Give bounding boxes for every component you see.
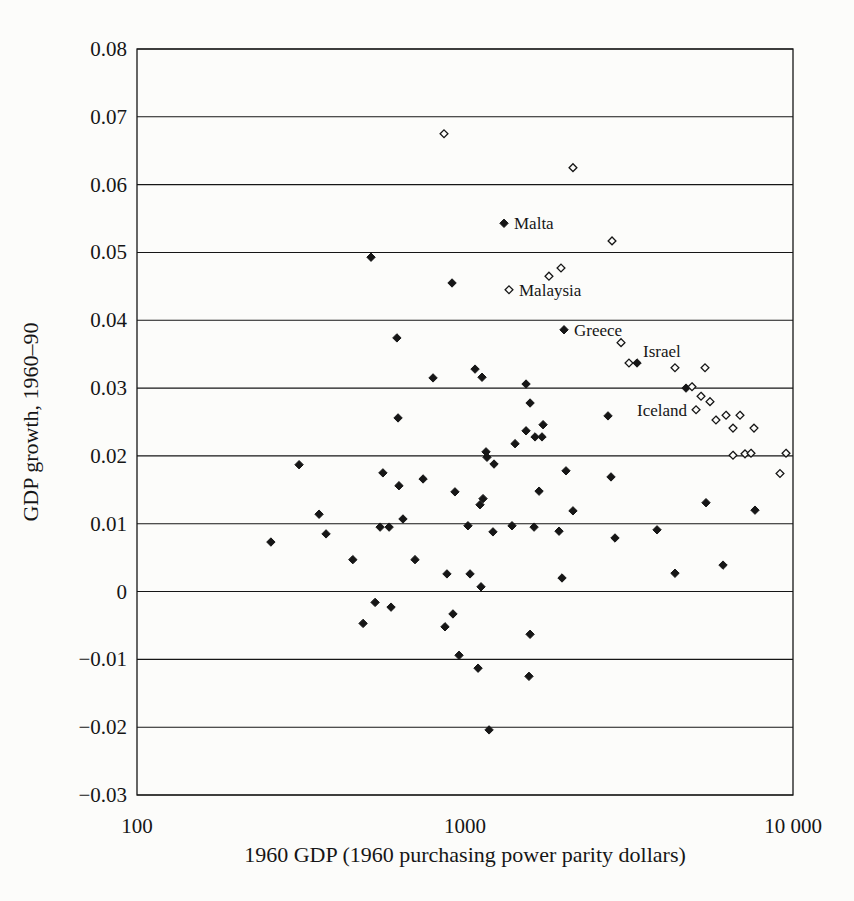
data-point-open	[750, 424, 758, 432]
data-point-filled	[526, 630, 534, 638]
data-point-open	[440, 130, 448, 138]
data-point-filled	[449, 610, 457, 618]
data-point-filled	[535, 487, 543, 495]
y-tick-label-−0.02: −0.02	[78, 715, 127, 739]
data-point-filled	[455, 651, 463, 659]
y-tick-label-−0.03: −0.03	[78, 783, 127, 807]
data-point-filled	[538, 433, 546, 441]
y-tick-label-0.04: 0.04	[90, 308, 127, 332]
data-point-filled	[511, 440, 519, 448]
data-point-filled	[500, 219, 508, 227]
data-point-filled	[539, 421, 547, 429]
data-point-filled	[569, 507, 577, 515]
data-point-filled	[441, 623, 449, 631]
y-tick-label-0.05: 0.05	[90, 240, 127, 264]
data-point-filled	[607, 473, 615, 481]
data-point-filled	[611, 534, 619, 542]
x-tick-label-100: 100	[121, 814, 153, 838]
data-point-filled	[525, 672, 533, 680]
x-tick-label-1000: 1000	[444, 814, 486, 838]
data-point-open	[697, 392, 705, 400]
y-tick-label-0.06: 0.06	[90, 173, 127, 197]
annotation-israel: Israel	[643, 342, 681, 361]
data-point-open	[722, 411, 730, 419]
data-point-filled	[315, 510, 323, 518]
data-point-open	[671, 364, 679, 372]
data-point-filled	[474, 664, 482, 672]
data-point-filled	[429, 374, 437, 382]
data-point-filled	[464, 522, 472, 530]
figure-page: 0.080.070.060.050.040.030.020.010−0.01−0…	[0, 0, 854, 901]
y-tick-label-−0.01: −0.01	[78, 647, 127, 671]
annotation-malta: Malta	[514, 214, 554, 233]
data-point-open	[706, 398, 714, 406]
country-labels-layer: MaltaMalaysiaGreeceIsraelIceland	[514, 214, 688, 420]
data-point-filled	[448, 279, 456, 287]
data-point-filled	[295, 461, 303, 469]
tick-labels-layer: 0.080.070.060.050.040.030.020.010−0.01−0…	[78, 37, 821, 838]
data-point-filled	[562, 467, 570, 475]
annotation-greece: Greece	[574, 321, 622, 340]
data-point-filled	[555, 527, 563, 535]
data-point-open	[625, 359, 633, 367]
data-point-open	[617, 339, 625, 347]
data-point-filled	[371, 598, 379, 606]
data-point-open	[545, 272, 553, 280]
data-point-filled	[359, 619, 367, 627]
y-axis-title: GDP growth, 1960–90	[18, 322, 43, 521]
plot-frame-layer	[137, 49, 793, 795]
scatter-plot: 0.080.070.060.050.040.030.020.010−0.01−0…	[0, 0, 854, 901]
data-point-filled	[379, 469, 387, 477]
y-tick-label-0.03: 0.03	[90, 376, 127, 400]
data-point-open	[557, 264, 565, 272]
y-tick-label-0.07: 0.07	[90, 105, 127, 129]
data-point-filled	[604, 412, 612, 420]
data-point-open	[712, 416, 720, 424]
data-point-filled	[477, 583, 485, 591]
data-point-filled	[387, 603, 395, 611]
data-point-filled	[522, 427, 530, 435]
data-point-filled	[490, 460, 498, 468]
data-point-open	[776, 470, 784, 478]
data-point-open	[505, 286, 513, 294]
data-point-open	[701, 364, 709, 372]
data-point-filled	[671, 569, 679, 577]
data-point-open	[729, 451, 737, 459]
data-point-filled	[393, 334, 401, 342]
data-point-filled	[478, 373, 486, 381]
plot-border	[137, 49, 793, 795]
data-point-filled	[558, 574, 566, 582]
x-axis-title: 1960 GDP (1960 purchasing power parity d…	[244, 842, 686, 867]
data-point-filled	[419, 475, 427, 483]
gridlines-layer	[137, 49, 793, 795]
data-point-filled	[399, 515, 407, 523]
data-point-filled	[451, 488, 459, 496]
data-point-open	[608, 237, 616, 245]
y-tick-label-0: 0	[117, 580, 128, 604]
data-point-filled	[466, 570, 474, 578]
data-point-filled	[702, 499, 710, 507]
data-point-open	[569, 164, 577, 172]
y-tick-label-0.08: 0.08	[90, 37, 127, 61]
data-point-filled	[719, 561, 727, 569]
data-point-filled	[411, 555, 419, 563]
data-point-filled	[751, 506, 759, 514]
y-tick-label-0.01: 0.01	[90, 512, 127, 536]
data-point-filled	[653, 526, 661, 534]
data-point-filled	[395, 482, 403, 490]
data-point-filled	[526, 399, 534, 407]
annotation-malaysia: Malaysia	[519, 281, 582, 300]
annotation-iceland: Iceland	[637, 401, 688, 420]
x-tick-label-10000: 10 000	[764, 814, 822, 838]
data-point-filled	[633, 359, 641, 367]
data-point-filled	[322, 530, 330, 538]
data-point-filled	[394, 414, 402, 422]
data-point-filled	[443, 570, 451, 578]
data-point-filled	[522, 380, 530, 388]
data-point-filled	[349, 555, 357, 563]
data-point-filled	[367, 253, 375, 261]
data-point-filled	[508, 522, 516, 530]
data-point-open	[692, 406, 700, 414]
y-tick-label-0.02: 0.02	[90, 444, 127, 468]
data-point-filled	[471, 365, 479, 373]
